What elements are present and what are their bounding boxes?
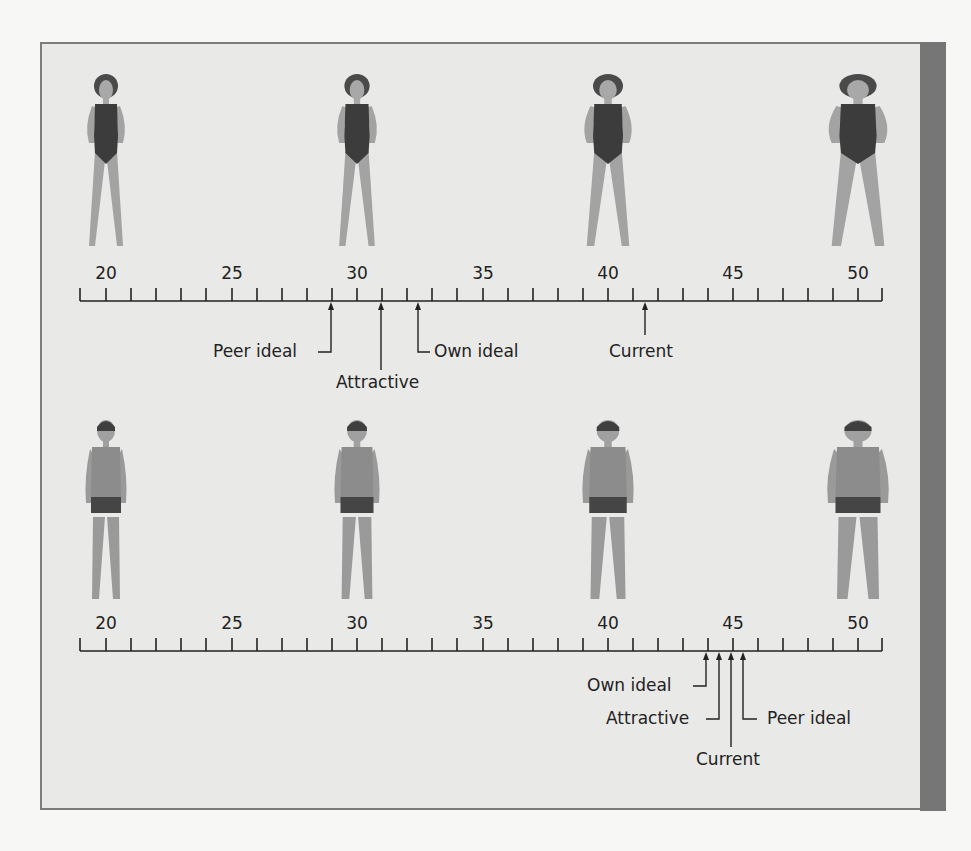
woman-figure-50	[829, 74, 888, 246]
marker-own-ideal-women	[415, 302, 430, 352]
label-own-ideal-women: Own ideal	[434, 343, 519, 360]
woman-figure-20	[87, 74, 125, 246]
top-axis	[80, 288, 882, 301]
top-tick-label-50: 50	[847, 265, 869, 282]
bottom-tick-label-45: 45	[722, 615, 744, 632]
woman-figure-40	[584, 74, 631, 246]
bottom-tick-label-50: 50	[847, 615, 869, 632]
marker-current-men	[728, 652, 734, 747]
label-current-men: Current	[696, 751, 760, 768]
woman-figure-30	[337, 74, 377, 246]
bottom-tick-label-35: 35	[472, 615, 494, 632]
label-attractive-men: Attractive	[606, 710, 689, 727]
bottom-tick-label-30: 30	[346, 615, 368, 632]
marker-attractive-men	[706, 652, 722, 719]
top-tick-label-40: 40	[597, 265, 619, 282]
label-current-women: Current	[609, 343, 673, 360]
label-attractive-women: Attractive	[336, 374, 419, 391]
marker-current-women	[642, 302, 648, 335]
label-peer-ideal-women: Peer ideal	[213, 343, 297, 360]
women-figures	[87, 74, 887, 246]
top-tick-label-35: 35	[472, 265, 494, 282]
men-figures	[86, 420, 889, 599]
man-figure-40	[582, 420, 633, 599]
label-peer-ideal-men: Peer ideal	[767, 710, 851, 727]
marker-peer-ideal-women	[318, 302, 334, 352]
marker-attractive-women	[378, 302, 384, 370]
top-tick-label-20: 20	[95, 265, 117, 282]
man-figure-30	[334, 420, 379, 599]
bottom-axis	[80, 638, 882, 651]
bottom-tick-label-20: 20	[95, 615, 117, 632]
bottom-tick-label-40: 40	[597, 615, 619, 632]
top-tick-label-30: 30	[346, 265, 368, 282]
top-tick-label-45: 45	[722, 265, 744, 282]
man-figure-50	[827, 420, 889, 599]
label-own-ideal-men: Own ideal	[587, 677, 672, 694]
top-tick-label-25: 25	[221, 265, 243, 282]
bottom-tick-label-25: 25	[221, 615, 243, 632]
man-figure-20	[86, 420, 127, 599]
bottom-markers	[693, 652, 757, 747]
marker-peer-ideal-men	[740, 652, 757, 719]
marker-own-ideal-men	[693, 652, 709, 686]
